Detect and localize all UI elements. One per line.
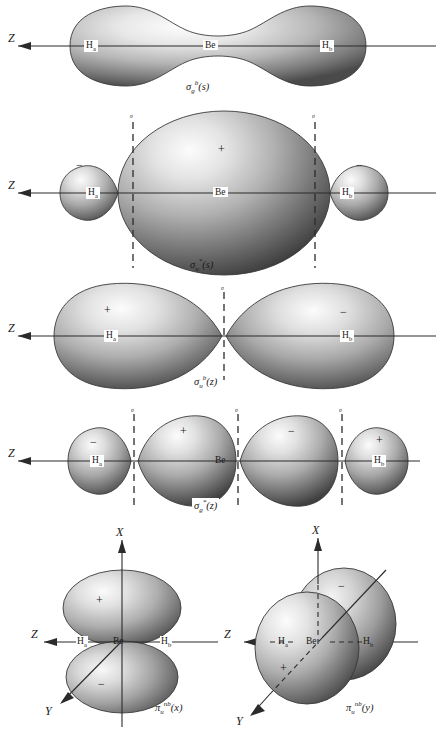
sign-plus-4: +: [376, 434, 383, 446]
nodal-plane-marker-1: σ: [221, 285, 224, 291]
axis-label-z: Z: [31, 627, 38, 642]
orbital-panel-sigma-g-b-s: Z Ha Be Hb σgb(s): [0, 0, 436, 108]
nodal-plane-marker-1: σ: [130, 113, 133, 119]
orbital-panel-pi-u-nb-x: X Z Y + − Ha Be Hb πunb(x): [0, 522, 218, 729]
x-axis-arrowhead: [314, 538, 322, 551]
atom-label-be: Be: [203, 40, 218, 50]
figure-canvas: Z Ha Be Hb σgb(s): [0, 0, 436, 729]
axis-label-x: X: [116, 525, 124, 540]
atom-label-be: Be: [213, 187, 228, 197]
z-axis-arrowhead: [18, 189, 31, 197]
atom-label-hb: Hb: [372, 455, 386, 467]
atom-label-ha: Ha: [104, 330, 118, 342]
atom-label-ha: Ha: [90, 455, 104, 467]
orbital-panel-sigma-u-star-s: Z σ σ − + − Ha Be Hb σu*(s): [0, 108, 436, 278]
axis-label-z: Z: [8, 178, 15, 193]
axis-label-y: Y: [45, 704, 52, 719]
atom-label-ha: Ha: [84, 40, 98, 52]
axis-label-z: Z: [8, 446, 15, 461]
axis-label-y: Y: [236, 714, 243, 729]
z-axis-arrowhead: [18, 42, 31, 50]
atom-label-hb: Hb: [340, 330, 354, 342]
atom-label-hb: Hb: [363, 636, 373, 648]
sign-plus-front: +: [280, 662, 287, 674]
z-axis-arrowhead: [44, 638, 57, 646]
nodal-plane-marker-3: σ: [339, 407, 342, 413]
nodal-plane-marker-2: σ: [312, 113, 315, 119]
atom-label-hb: Hb: [340, 187, 354, 199]
sign-minus-3: −: [288, 425, 295, 437]
axis-label-x: X: [312, 523, 320, 538]
orbital-panel-sigma-u-b-z: Z σ + − Ha Hb σub(z): [0, 278, 436, 400]
sign-minus-right: −: [340, 306, 347, 318]
orbital-caption-6: πunb(y): [346, 700, 373, 716]
atom-label-ha: Ha: [278, 636, 288, 648]
sign-minus-1: −: [90, 436, 97, 448]
axis-label-z: Z: [8, 321, 15, 336]
atom-label-hb: Hb: [160, 636, 172, 648]
orbital-lobe-front: [255, 592, 359, 704]
sign-minus-lower: −: [98, 678, 105, 690]
axis-label-z: Z: [8, 31, 15, 46]
orbital-drawing-5: [0, 522, 218, 729]
atom-label-ha: Ha: [76, 636, 88, 648]
atom-label-be: Be: [215, 455, 226, 465]
z-axis-arrowhead: [18, 332, 31, 340]
sign-plus-2: +: [180, 425, 187, 437]
sign-minus-right: −: [356, 159, 363, 171]
atom-label-be: Be: [113, 636, 124, 646]
orbital-caption-3: σub(z): [192, 374, 219, 390]
orbital-caption-4: σg*(z): [192, 498, 219, 514]
sign-minus-left: −: [76, 159, 83, 171]
sign-plus-upper: +: [96, 594, 103, 606]
nodal-plane-marker-1: σ: [131, 407, 134, 413]
sign-plus-left: +: [104, 304, 111, 316]
y-axis-arrowhead: [250, 704, 265, 716]
axis-label-z: Z: [224, 627, 231, 642]
orbital-caption-2: σu*(s): [190, 257, 213, 273]
orbital-caption-5: πunb(x): [155, 700, 182, 716]
orbital-drawing-1: [0, 0, 436, 108]
atom-label-be: Be: [306, 636, 317, 646]
x-axis-arrowhead: [118, 540, 126, 553]
atom-label-ha: Ha: [86, 187, 100, 199]
orbital-panel-pi-u-nb-y: X Z Y − + Ha Be Hb πunb(y): [218, 522, 436, 729]
orbital-panel-sigma-g-star-z: Z σ σ σ − + − + Ha Be Hb σg*(z): [0, 400, 436, 522]
orbital-caption-1: σgb(s): [186, 79, 209, 95]
sign-minus-back: −: [338, 580, 345, 592]
orbital-drawing-6: [218, 522, 436, 729]
nodal-plane-marker-2: σ: [235, 407, 238, 413]
z-axis-arrowhead: [18, 457, 31, 465]
atom-label-hb: Hb: [320, 40, 334, 52]
sign-plus-center: +: [218, 143, 225, 155]
